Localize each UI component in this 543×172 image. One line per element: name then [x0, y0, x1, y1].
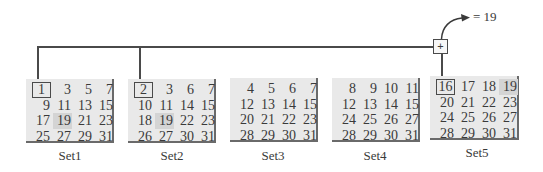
set1-card: 135791113151719212325272931 — [26, 79, 114, 143]
number-cell: 4 — [236, 81, 255, 97]
set3-card: 4567121314152021222328293031 — [230, 78, 318, 142]
number-cell: 7 — [95, 82, 114, 98]
number-cell: 10 — [134, 98, 153, 114]
number-cell: 28 — [436, 126, 455, 142]
number-cell: 10 — [380, 81, 399, 97]
number-cell: 27 — [401, 112, 420, 128]
number-cell: 15 — [95, 98, 114, 114]
number-cell: 30 — [478, 126, 497, 142]
key-number-cell: 1 — [32, 82, 51, 98]
number-cell: 11 — [155, 98, 174, 114]
number-cell: 30 — [176, 129, 195, 145]
number-cell: 27 — [53, 129, 72, 145]
number-cell: 23 — [197, 113, 216, 129]
number-cell: 23 — [299, 112, 318, 128]
set2-card: 2367101114151819222326273031 — [128, 79, 216, 143]
number-cell: 9 — [32, 98, 51, 114]
sum-operator-box: + — [433, 39, 448, 54]
number-cell: 3 — [53, 82, 72, 98]
number-cell: 9 — [359, 81, 378, 97]
number-cell: 14 — [380, 97, 399, 113]
number-cell: 15 — [299, 97, 318, 113]
number-cell: 23 — [499, 95, 518, 111]
set3-label: Set3 — [261, 148, 284, 164]
number-cell: 6 — [278, 81, 297, 97]
number-cell: 28 — [338, 128, 357, 144]
number-cell: 29 — [257, 128, 276, 144]
number-cell: 27 — [499, 110, 518, 126]
number-cell: 15 — [401, 97, 420, 113]
number-cell: 11 — [53, 98, 72, 114]
number-cell: 20 — [236, 112, 255, 128]
number-cell: 21 — [74, 113, 93, 129]
number-cell: 31 — [197, 129, 216, 145]
number-cell: 29 — [359, 128, 378, 144]
set1-label: Set1 — [58, 148, 81, 164]
number-cell: 3 — [155, 82, 174, 98]
number-cell: 18 — [134, 113, 153, 129]
number-cell: 24 — [436, 110, 455, 126]
set2-grid: 2367101114151819222326273031 — [134, 82, 216, 144]
set4-grid: 891011121314152425262728293031 — [338, 81, 420, 143]
number-cell: 5 — [257, 81, 276, 97]
set4-card: 891011121314152425262728293031 — [332, 78, 420, 142]
number-cell: 29 — [74, 129, 93, 145]
number-cell: 25 — [457, 110, 476, 126]
set4-label: Set4 — [363, 148, 386, 164]
number-cell: 22 — [478, 95, 497, 111]
number-cell: 27 — [155, 129, 174, 145]
number-cell: 12 — [338, 97, 357, 113]
set5-grid: 16171819202122232425262728293031 — [436, 79, 518, 141]
sum-result: = 19 — [473, 9, 497, 25]
number-cell: 20 — [436, 95, 455, 111]
number-cell: 30 — [278, 128, 297, 144]
highlighted-number-cell: 19 — [499, 79, 518, 95]
set2-label: Set2 — [160, 148, 183, 164]
number-cell: 29 — [457, 126, 476, 142]
number-cell: 13 — [359, 97, 378, 113]
set1-grid: 135791113151719212325272931 — [32, 82, 114, 144]
number-cell: 14 — [278, 97, 297, 113]
number-cell: 12 — [236, 97, 255, 113]
highlighted-number-cell: 19 — [155, 113, 174, 129]
number-cell: 18 — [478, 79, 497, 95]
number-cell: 5 — [74, 82, 93, 98]
number-cell: 26 — [380, 112, 399, 128]
number-cell: 17 — [32, 113, 51, 129]
number-cell: 31 — [95, 129, 114, 145]
key-number-cell: 16 — [436, 79, 455, 95]
number-cell: 21 — [457, 95, 476, 111]
number-cell: 6 — [176, 82, 195, 98]
set3-grid: 4567121314152021222328293031 — [236, 81, 318, 143]
number-cell: 28 — [236, 128, 255, 144]
set5-card: 16171819202122232425262728293031 — [430, 76, 519, 140]
number-cell: 22 — [278, 112, 297, 128]
key-number-cell: 2 — [134, 82, 153, 98]
number-cell: 13 — [257, 97, 276, 113]
number-cell: 14 — [176, 98, 195, 114]
number-cell: 8 — [338, 81, 357, 97]
number-cell: 31 — [299, 128, 318, 144]
number-cell: 26 — [134, 129, 153, 145]
number-cell: 7 — [197, 82, 216, 98]
number-cell: 26 — [478, 110, 497, 126]
number-cell: 13 — [74, 98, 93, 114]
number-cell: 22 — [176, 113, 195, 129]
number-cell: 25 — [359, 112, 378, 128]
highlighted-number-cell: 19 — [53, 113, 72, 129]
set5-label: Set5 — [465, 145, 488, 161]
number-cell: 24 — [338, 112, 357, 128]
number-cell: 11 — [401, 81, 420, 97]
number-cell: 31 — [401, 128, 420, 144]
number-cell: 30 — [380, 128, 399, 144]
number-cell: 31 — [499, 126, 518, 142]
number-cell: 17 — [457, 79, 476, 95]
number-cell: 15 — [197, 98, 216, 114]
number-cell: 7 — [299, 81, 318, 97]
number-cell: 25 — [32, 129, 51, 145]
number-cell: 21 — [257, 112, 276, 128]
number-cell: 23 — [95, 113, 114, 129]
